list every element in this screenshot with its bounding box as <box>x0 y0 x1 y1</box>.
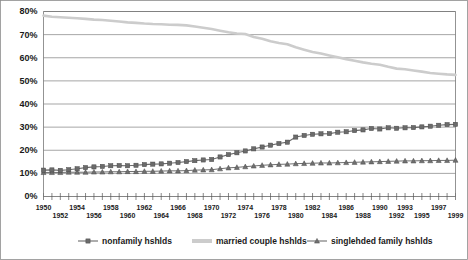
legend-item-married-couple-hshlds[interactable]: married couple hshlds <box>192 236 307 246</box>
x-tick-label: 1978 <box>271 204 287 211</box>
legend-swatch-band <box>192 239 212 243</box>
y-tick-label: 50% <box>19 76 37 86</box>
data-point-marker-square <box>277 141 281 145</box>
x-tick-label: 1958 <box>103 204 119 211</box>
x-tick-label: 1952 <box>53 212 69 219</box>
x-tick-label: 1997 <box>431 204 447 211</box>
y-tick-label: 80% <box>19 6 37 16</box>
x-tick-label: 1968 <box>187 212 203 219</box>
data-point-marker-square <box>369 126 373 130</box>
y-tick-label: 60% <box>19 53 37 63</box>
x-tick-label: 1956 <box>86 212 102 219</box>
x-axis-tick-labels: 1950195419581962196619701974197819821986… <box>36 204 464 219</box>
x-tick-label: 1995 <box>414 212 430 219</box>
x-tick-label: 1982 <box>305 204 321 211</box>
y-tick-label: 0% <box>24 191 37 201</box>
chart-legend: nonfamily hshldsmarried couple hshldssin… <box>78 236 433 246</box>
y-tick-label: 40% <box>19 99 37 109</box>
data-point-marker-square <box>420 125 424 129</box>
legend-label: singlehded family hshlds <box>331 236 433 246</box>
data-point-marker-square <box>134 163 138 167</box>
data-point-marker-square <box>344 130 348 134</box>
x-tick-label: 1986 <box>338 204 354 211</box>
series-nonfamily-hshlds <box>41 122 457 172</box>
chart-container: 0%10%20%30%40%50%60%70%80% 1950195419581… <box>0 0 468 260</box>
data-point-marker-square <box>75 167 79 171</box>
data-point-marker-square <box>243 149 247 153</box>
x-tick-label: 1974 <box>238 204 254 211</box>
data-point-marker-square <box>50 168 54 172</box>
data-point-marker-square <box>411 125 415 129</box>
data-point-marker-square <box>285 140 289 144</box>
x-tick-label: 1992 <box>389 212 405 219</box>
x-tick-label: 1970 <box>204 204 220 211</box>
data-point-marker-square <box>310 132 314 136</box>
series-line <box>44 124 456 170</box>
data-point-marker-square <box>235 151 239 155</box>
x-tick-label: 1964 <box>153 212 169 219</box>
x-tick-label: 1972 <box>221 212 237 219</box>
x-tick-label: 1980 <box>288 212 304 219</box>
data-series-group <box>41 16 458 175</box>
x-tick-label: 1999 <box>448 212 464 219</box>
data-point-marker-square <box>453 122 457 126</box>
x-tick-label: 1976 <box>254 212 270 219</box>
legend-item-nonfamily-hshlds[interactable]: nonfamily hshlds <box>78 236 172 246</box>
data-point-marker-square <box>395 126 399 130</box>
y-axis-tick-labels: 0%10%20%30%40%50%60%70%80% <box>19 6 37 201</box>
x-tick-label: 1990 <box>372 204 388 211</box>
data-point-marker-square <box>210 157 214 161</box>
data-point-marker-square <box>319 132 323 136</box>
data-point-marker-square <box>41 168 45 172</box>
x-tick-label: 1950 <box>36 204 52 211</box>
data-point-marker-square <box>109 164 113 168</box>
x-tick-label: 1988 <box>355 212 371 219</box>
legend-label: nonfamily hshlds <box>102 236 172 246</box>
data-point-marker-square <box>268 143 272 147</box>
line-chart: 0%10%20%30%40%50%60%70%80% 1950195419581… <box>0 0 468 260</box>
data-point-marker-square <box>125 164 129 168</box>
x-tick-label: 1962 <box>137 204 153 211</box>
y-tick-label: 70% <box>19 30 37 40</box>
data-point-marker-square <box>327 132 331 136</box>
data-point-marker-square <box>260 145 264 149</box>
legend-item-singlehded-family-hshlds[interactable]: singlehded family hshlds <box>307 236 433 246</box>
series-line <box>44 16 456 75</box>
data-point-marker-square <box>184 159 188 163</box>
x-tick-label: 1966 <box>170 204 186 211</box>
data-point-marker-square <box>117 163 121 167</box>
data-point-marker-square <box>294 135 298 139</box>
data-point-marker-square <box>92 165 96 169</box>
x-tick-label: 1954 <box>69 204 85 211</box>
y-tick-label: 20% <box>19 145 37 155</box>
data-point-marker-square <box>201 158 205 162</box>
series-married-couple-hshlds <box>44 16 456 75</box>
y-tick-label: 10% <box>19 168 37 178</box>
data-point-marker-square <box>151 162 155 166</box>
y-tick-label: 30% <box>19 122 37 132</box>
data-point-marker-square <box>159 162 163 166</box>
data-point-marker-square <box>302 133 306 137</box>
data-point-marker-square <box>58 168 62 172</box>
data-point-marker-square <box>86 239 90 243</box>
x-tick-label: 1984 <box>322 212 338 219</box>
data-point-marker-square <box>353 128 357 132</box>
x-tick-label: 1993 <box>397 204 413 211</box>
data-point-marker-square <box>403 126 407 130</box>
data-point-marker-square <box>176 160 180 164</box>
data-point-marker-square <box>428 124 432 128</box>
data-point-marker-square <box>67 168 71 172</box>
data-point-marker-square <box>226 153 230 157</box>
data-point-marker-square <box>361 128 365 132</box>
data-point-marker-square <box>83 165 87 169</box>
x-tick-label: 1960 <box>120 212 136 219</box>
data-point-marker-square <box>100 164 104 168</box>
data-point-marker-square <box>193 159 197 163</box>
data-point-marker-square <box>336 130 340 134</box>
data-point-marker-square <box>218 155 222 159</box>
data-point-marker-square <box>142 162 146 166</box>
legend-label: married couple hshlds <box>216 236 307 246</box>
data-point-marker-square <box>437 123 441 127</box>
x-axis-tick-marks <box>44 193 456 200</box>
data-point-marker-square <box>168 161 172 165</box>
